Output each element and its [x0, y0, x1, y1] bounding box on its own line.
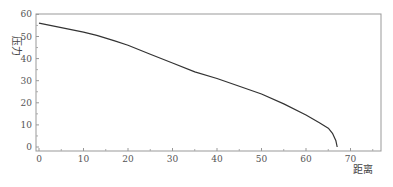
pressure-curve: [39, 23, 337, 147]
x-tick-label: 10: [78, 154, 90, 164]
y-tick-label: 20: [21, 98, 33, 108]
plot-frame: [36, 14, 381, 151]
x-axis-label: 距离: [353, 163, 373, 175]
y-tick-label: 30: [21, 76, 33, 86]
y-tick-label: 0: [26, 142, 32, 152]
x-axis-ticks: 010203040506070: [36, 148, 373, 164]
x-tick-label: 30: [167, 154, 179, 164]
y-tick-label: 10: [21, 120, 33, 130]
x-tick-label: 50: [256, 154, 268, 164]
y-axis-label: 压力: [11, 36, 23, 56]
x-tick-label: 0: [36, 154, 42, 164]
line-chart: 0102030405060 010203040506070 压力 距离: [0, 0, 393, 187]
y-tick-label: 60: [21, 9, 33, 19]
x-tick-label: 40: [211, 154, 223, 164]
x-tick-label: 20: [122, 154, 134, 164]
x-tick-label: 70: [345, 154, 357, 164]
x-tick-label: 60: [300, 154, 312, 164]
